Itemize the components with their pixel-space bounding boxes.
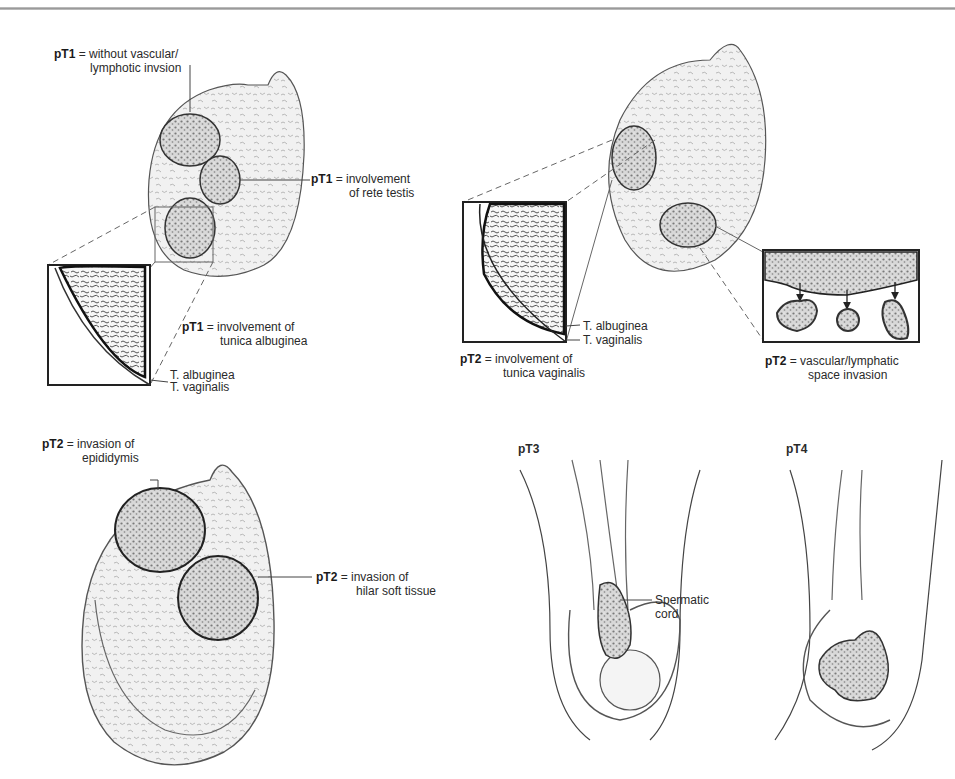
label-line2: hilar soft tissue — [316, 584, 436, 598]
panel-title-pT4: pT4 — [786, 442, 807, 456]
label-line2: lymphotic invsion — [54, 61, 181, 75]
stage-code: pT1 — [54, 47, 75, 61]
label-pT2-epididymis: pT2 = invasion of epididymis — [42, 437, 139, 465]
label-line1: invasion of — [77, 437, 134, 451]
label-line2: cord — [655, 607, 709, 621]
label-line1: involvement — [346, 172, 410, 186]
label-pT2-tunica-vaginalis: pT2 = involvement of tunica vaginalis — [460, 352, 585, 380]
separator: = — [786, 354, 800, 368]
separator: = — [75, 47, 89, 61]
panel-pT2-epididymis-drawing — [82, 465, 312, 765]
layer-label-vaginalis-2: T. vaginalis — [583, 333, 642, 347]
label-pT2-hilar-soft-tissue: pT2 = invasion of hilar soft tissue — [316, 570, 436, 598]
label-line1: invasion of — [351, 570, 408, 584]
label-spermatic-cord: Spermatic cord — [655, 593, 709, 621]
label-line2: of rete testis — [311, 186, 414, 200]
stage-code: pT1 — [182, 320, 203, 334]
label-line1: involvement of — [217, 320, 294, 334]
separator: = — [203, 320, 217, 334]
stage-code: pT2 — [316, 570, 337, 584]
panel-title-pT3: pT3 — [518, 442, 539, 456]
testicular-tumor-staging-illustration — [0, 0, 955, 779]
label-line2: tunica vaginalis — [460, 366, 585, 380]
label-line1: Spermatic — [655, 593, 709, 607]
layer-label-albuginea-2: T. albuginea — [583, 319, 648, 333]
stage-code: pT2 — [42, 437, 63, 451]
separator: = — [63, 437, 77, 451]
label-line2: space invasion — [765, 368, 899, 382]
label-pT2-vascular-lymphatic: pT2 = vascular/lymphatic space invasion — [765, 354, 899, 382]
stage-code: pT1 — [311, 172, 332, 186]
stage-code: pT2 — [765, 354, 786, 368]
panel-pT4-drawing — [775, 460, 942, 750]
label-line2: tunica albuginea — [182, 334, 307, 348]
label-pT1-rete-testis: pT1 = involvement of rete testis — [311, 172, 414, 200]
label-line1: without vascular/ — [89, 47, 178, 61]
label-pT1-no-vascular-invasion: pT1 = without vascular/ lymphotic invsio… — [54, 47, 181, 75]
stage-code: pT2 — [460, 352, 481, 366]
label-line1: involvement of — [495, 352, 572, 366]
separator: = — [337, 570, 351, 584]
layer-label-vaginalis-1: T. vaginalis — [170, 380, 229, 394]
panel-pT2-vaginalis-drawing — [463, 44, 919, 342]
label-line1: vascular/lymphatic — [800, 354, 899, 368]
label-line2: epididymis — [42, 451, 139, 465]
label-pT1-tunica-albuginea: pT1 = involvement of tunica albuginea — [182, 320, 307, 348]
separator: = — [481, 352, 495, 366]
separator: = — [332, 172, 346, 186]
